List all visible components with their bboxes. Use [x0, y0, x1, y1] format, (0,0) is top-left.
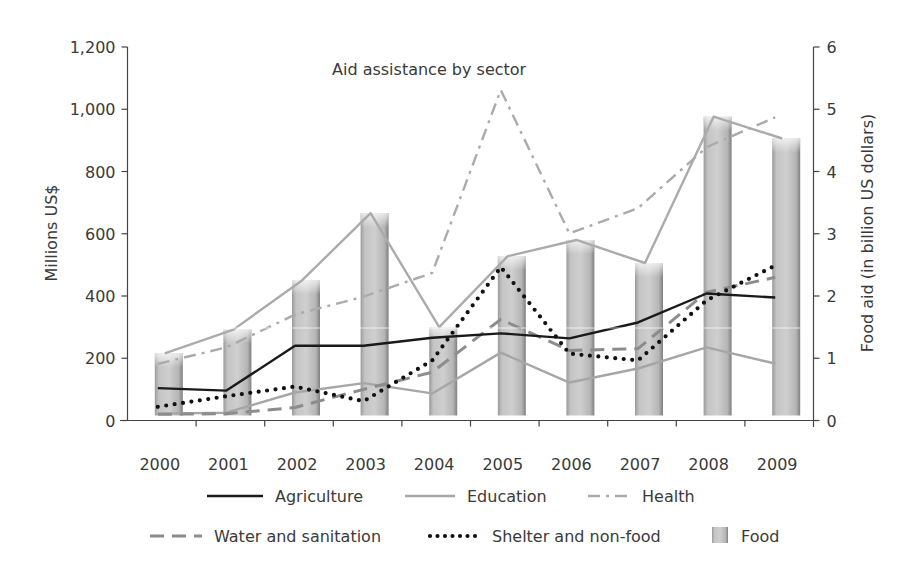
y-tick-label: 600	[85, 225, 116, 244]
y2-tick-label: 3	[827, 225, 837, 244]
y2-tick-label: 1	[827, 349, 837, 368]
legend-item-health: Health	[588, 487, 695, 506]
legend-item-water-and-sanitation: Water and sanitation	[150, 527, 381, 546]
series-lines	[158, 90, 782, 414]
legend-item-agriculture: Agriculture	[207, 487, 363, 506]
series-line-health	[158, 90, 775, 364]
food-bar	[429, 327, 457, 415]
legend-label: Water and sanitation	[214, 527, 381, 546]
chart-title: Aid assistance by sector	[332, 60, 527, 79]
y2-tick-label: 6	[827, 38, 837, 57]
x-tick-label: 2005	[482, 455, 523, 474]
food-bar	[635, 263, 663, 415]
left-axis: 02004006008001,0001,200	[70, 38, 128, 431]
y-tick-label: 0	[105, 412, 115, 431]
y2-tick-label: 5	[827, 100, 837, 119]
left-axis-label: Millions US$	[42, 185, 61, 282]
y2-tick-label: 0	[827, 412, 837, 431]
x-tick-label: 2007	[620, 455, 661, 474]
food-trend-line	[165, 117, 782, 354]
legend-item-food: Food	[712, 527, 779, 546]
food-swatch-icon	[712, 527, 728, 543]
food-bar	[772, 139, 800, 416]
x-tick-label: 2003	[345, 455, 386, 474]
x-tick-label: 2008	[688, 455, 729, 474]
food-bar	[292, 280, 320, 415]
legend-label: Shelter and non-food	[492, 527, 661, 546]
y-tick-label: 1,200	[70, 38, 116, 57]
y-tick-label: 200	[85, 349, 116, 368]
x-tick-label: 2002	[277, 455, 318, 474]
x-tick-label: 2006	[551, 455, 592, 474]
legend: AgricultureEducationHealthWater and sani…	[150, 487, 779, 546]
y-tick-label: 1,000	[70, 100, 116, 119]
x-axis: 2000200120022003200420052006200720082009	[120, 421, 819, 475]
food-bars	[155, 117, 800, 416]
chart: Aid assistance by sector 02004006008001,…	[0, 0, 916, 579]
x-tick-label: 2000	[139, 455, 180, 474]
right-axis: 0123456	[814, 38, 837, 431]
legend-item-education: Education	[405, 487, 547, 506]
legend-label: Education	[467, 487, 547, 506]
right-axis-label: Food aid (in billion US dollars)	[858, 114, 877, 353]
legend-label: Agriculture	[275, 487, 363, 506]
x-tick-label: 2001	[208, 455, 249, 474]
y-tick-label: 800	[85, 163, 116, 182]
legend-label: Health	[642, 487, 695, 506]
legend-item-shelter-and-non-food: Shelter and non-food	[430, 527, 661, 546]
x-tick-label: 2009	[757, 455, 798, 474]
food-bar	[704, 117, 732, 416]
y-tick-label: 400	[85, 287, 116, 306]
x-tick-label: 2004	[414, 455, 455, 474]
y2-tick-label: 2	[827, 287, 837, 306]
y2-tick-label: 4	[827, 163, 837, 182]
legend-label: Food	[741, 527, 779, 546]
